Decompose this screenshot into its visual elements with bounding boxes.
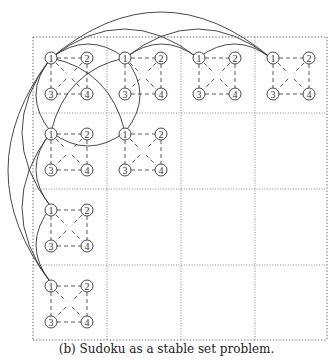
cell-graph: 1234 [267,52,315,100]
figure-caption: (b) Sudoku as a stable set problem. [0,342,333,356]
node-label: 2 [233,53,238,64]
node-label: 2 [307,53,312,64]
node-label: 1 [49,129,54,140]
cell-graph: 1234 [45,128,93,176]
node-label: 2 [159,129,164,140]
node-label: 3 [271,89,276,100]
node-label: 4 [307,89,312,100]
node-label: 4 [85,317,90,328]
node-label: 3 [123,165,128,176]
node-label: 2 [159,53,164,64]
node-label: 4 [85,241,90,252]
cell-graph: 1234 [45,280,93,328]
node-label: 3 [49,317,54,328]
node-label: 4 [85,89,90,100]
cell-graph: 1234 [119,128,167,176]
node-label: 1 [271,53,276,64]
cell-graph: 1234 [45,52,93,100]
node-label: 2 [85,53,90,64]
node-label: 1 [123,129,128,140]
node-label: 2 [85,205,90,216]
conflict-arc [51,12,271,58]
node-label: 3 [123,89,128,100]
node-label: 2 [85,281,90,292]
cell-graphs: 12341234123412341234123412341234 [45,52,315,328]
node-label: 3 [49,165,54,176]
node-label: 1 [49,53,54,64]
node-label: 4 [159,165,164,176]
node-label: 3 [49,241,54,252]
node-label: 4 [159,89,164,100]
cell-graph: 1234 [45,204,93,252]
node-label: 3 [197,89,202,100]
node-label: 1 [49,281,54,292]
node-label: 4 [85,165,90,176]
cell-graph: 1234 [193,52,241,100]
sudoku-stable-set-diagram: 12341234123412341234123412341234 [0,0,333,360]
node-label: 4 [233,89,238,100]
node-label: 2 [85,129,90,140]
cell-graph: 1234 [119,52,167,100]
node-label: 1 [123,53,128,64]
node-label: 3 [49,89,54,100]
node-label: 1 [197,53,202,64]
node-label: 1 [49,205,54,216]
